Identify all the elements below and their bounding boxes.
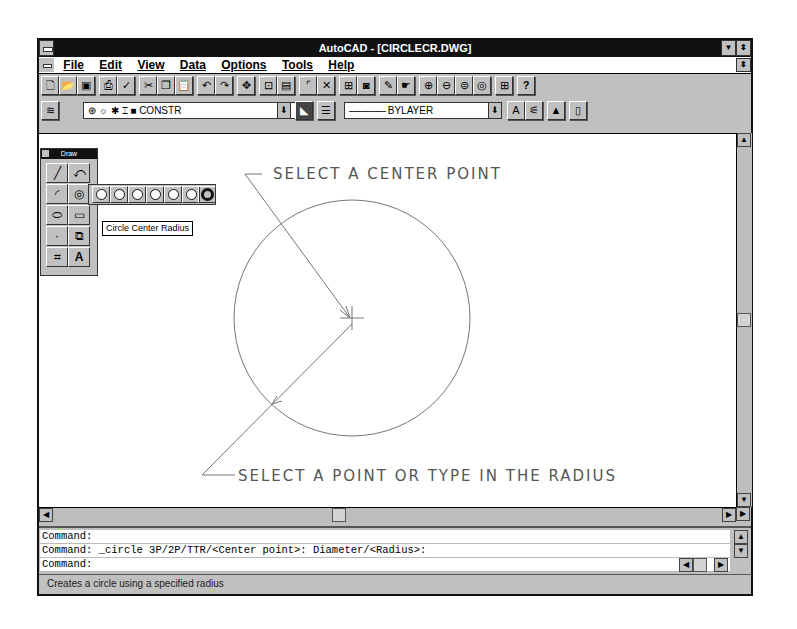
system-menu-button[interactable]	[39, 40, 54, 56]
scroll-left-icon[interactable]: ◀	[39, 508, 53, 522]
circle-2point-icon[interactable]	[128, 186, 146, 203]
pan-icon[interactable]: ✥	[237, 76, 255, 95]
hatch-icon[interactable]: ⌗	[46, 247, 68, 267]
list-icon[interactable]: ▲	[547, 101, 565, 120]
spell-icon[interactable]: ✓	[117, 76, 135, 95]
menu-options[interactable]: Options	[215, 57, 272, 73]
polyline-icon[interactable]: ⤺	[68, 163, 90, 183]
multiline-text-icon[interactable]: A	[507, 101, 525, 120]
tooltip: Circle Center Radius	[102, 221, 193, 236]
zoom-out-icon[interactable]: ⊖	[437, 76, 455, 95]
circle-ttr-icon[interactable]	[164, 186, 182, 203]
command-scroll-up-icon[interactable]: ▲	[734, 530, 748, 544]
command-input[interactable]: Command:	[40, 558, 730, 572]
print-icon[interactable]: ⎙	[99, 76, 117, 95]
radius-leader	[202, 324, 352, 475]
minimize-button[interactable]: ▼	[721, 40, 736, 56]
menu-bar: File Edit View Data Options Tools Help ⬍	[39, 57, 751, 74]
annotation-radius: SELECT A POINT OR TYPE IN THE RADIUS	[238, 467, 617, 485]
autocad-window: AutoCAD - [CIRCLECR.DWG] ▼ ⬍ File Edit V…	[37, 38, 753, 596]
center-leader	[245, 174, 350, 318]
menu-tools[interactable]: Tools	[276, 57, 319, 73]
layer-name: CONSTR	[139, 105, 181, 116]
window-title: AutoCAD - [CIRCLECR.DWG]	[319, 42, 472, 54]
command-window: Command: Command: _circle 3P/2P/TTR/<Cen…	[39, 526, 751, 574]
command-hscroll-thumb[interactable]	[693, 558, 707, 572]
restore-button[interactable]: ⬍	[736, 40, 751, 56]
hand-icon[interactable]: ☛	[397, 76, 415, 95]
command-history[interactable]: Command: Command: _circle 3P/2P/TTR/<Cen…	[40, 530, 730, 572]
arc-icon[interactable]: ◜	[46, 184, 68, 204]
draw-toolbar: Draw ╱ ⤺ ◜ ◎ ⬭ ▭ · ⧉ ⌗ A	[40, 148, 98, 276]
save-icon[interactable]: ▣	[77, 76, 95, 95]
redo-icon[interactable]: ↷	[215, 76, 233, 95]
new-icon[interactable]: 🗋	[41, 76, 59, 95]
point-icon[interactable]: ·	[46, 226, 68, 246]
text-icon[interactable]: A	[68, 247, 90, 267]
horizontal-scrollbar[interactable]: ◀ ▶	[39, 507, 736, 523]
open-icon[interactable]: 📂	[59, 76, 77, 95]
object-properties-toolbar: ≋ ⊕ ☼ ✱ ⌶ ■ CONSTR ⬇ ◣ ☰ ———— BYLAYER ⬇ …	[39, 99, 751, 123]
linetype-dropdown[interactable]: ———— BYLAYER	[344, 102, 502, 119]
horizontal-scroll-thumb[interactable]	[332, 508, 346, 522]
circle-center-radius-icon[interactable]	[92, 186, 110, 203]
command-scroll-left-icon[interactable]: ◀	[679, 558, 693, 572]
object-snap-icon[interactable]: ✕	[317, 76, 335, 95]
title-bar: AutoCAD - [CIRCLECR.DWG] ▼ ⬍	[39, 40, 751, 57]
named-views-icon[interactable]: ⊞	[339, 76, 357, 95]
document-restore-button[interactable]: ⬍	[736, 58, 751, 72]
layer-dropdown[interactable]: ⊕ ☼ ✱ ⌶ ■ CONSTR	[83, 102, 303, 119]
vertical-scrollbar[interactable]: ▲ ▼	[736, 133, 752, 507]
inquiry-icon[interactable]: ▯	[569, 101, 587, 120]
cut-icon[interactable]: ✂	[139, 76, 157, 95]
tiled-viewports-icon[interactable]: ⊞	[495, 76, 513, 95]
paste-icon[interactable]: 📋	[175, 76, 193, 95]
menu-data[interactable]: Data	[174, 57, 212, 73]
redraw-icon[interactable]: ◙	[357, 76, 375, 95]
distance-icon[interactable]: ⌜	[299, 76, 317, 95]
layer-dropdown-arrow[interactable]: ⬇	[277, 102, 291, 119]
zoom-in-icon[interactable]: ⊕	[419, 76, 437, 95]
scroll-up-icon[interactable]: ▲	[737, 133, 751, 147]
rectangle-icon[interactable]: ▭	[68, 205, 90, 225]
undo-icon[interactable]: ↶	[197, 76, 215, 95]
menu-edit[interactable]: Edit	[93, 57, 128, 73]
menu-view[interactable]: View	[131, 57, 170, 73]
menu-file[interactable]: File	[57, 57, 90, 73]
insert-block-icon[interactable]: ⧉	[68, 226, 90, 246]
scroll-right-icon[interactable]: ▶	[722, 508, 736, 522]
ellipse-icon[interactable]: ⬭	[46, 205, 68, 225]
command-scroll-down-icon[interactable]: ▼	[734, 544, 748, 558]
copy-icon[interactable]: ❐	[157, 76, 175, 95]
linetype-value: BYLAYER	[388, 105, 433, 116]
standard-toolbar: 🗋 📂 ▣ ⎙ ✓ ✂ ❐ 📋 ↶ ↷ ✥ ⊡ ▤ ⌜ ✕ ⊞ ◙ ✎ ☛ ⊕ …	[39, 74, 751, 98]
document-system-menu[interactable]	[39, 58, 54, 72]
line-icon[interactable]: ╱	[46, 163, 68, 183]
zoom-all-icon[interactable]: ⊜	[455, 76, 473, 95]
draw-toolbar-header[interactable]: Draw	[41, 149, 97, 159]
menu-help[interactable]: Help	[322, 57, 360, 73]
annotation-center: SELECT A CENTER POINT	[273, 165, 502, 183]
circle-icon[interactable]: ◎	[68, 184, 90, 204]
aerial-view-icon[interactable]: ▤	[277, 76, 295, 95]
toolbar-close-icon[interactable]	[42, 150, 49, 157]
linetype-dropdown-arrow[interactable]: ⬇	[488, 102, 502, 119]
status-bar: Creates a circle using a specified radiu…	[39, 574, 751, 592]
corner-arrow-icon[interactable]: ▶	[736, 507, 750, 521]
zoom-window-icon[interactable]: ⊡	[259, 76, 277, 95]
circle-center-diameter-icon[interactable]	[110, 186, 128, 203]
linetype-icon[interactable]: ☰	[317, 101, 335, 120]
vertical-scroll-thumb[interactable]	[737, 313, 751, 327]
color-control-icon[interactable]: ◣	[295, 101, 313, 120]
edit-icon[interactable]: ✎	[379, 76, 397, 95]
scroll-down-icon[interactable]: ▼	[737, 493, 751, 507]
edit-properties-icon[interactable]: ⚟	[525, 101, 543, 120]
command-line: Command:	[40, 530, 730, 544]
help-icon[interactable]: ?	[517, 76, 535, 95]
zoom-extents-icon[interactable]: ◎	[473, 76, 491, 95]
command-scroll-right-icon[interactable]: ▶	[714, 558, 728, 572]
donut-icon[interactable]	[198, 186, 216, 203]
circle-flyout	[88, 184, 216, 205]
circle-3point-icon[interactable]	[146, 186, 164, 203]
layers-icon[interactable]: ≋	[41, 101, 59, 120]
